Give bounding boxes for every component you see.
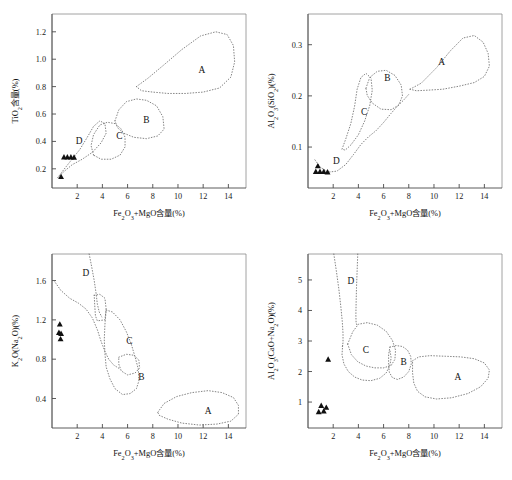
y-tick-label: 1.2 [36, 28, 46, 37]
field-label-D: D [333, 156, 340, 166]
field-label-B: B [384, 73, 390, 83]
data-point-marker [57, 321, 63, 326]
y-tick-label: 0.8 [36, 83, 46, 92]
x-tick-label: 2 [331, 432, 335, 441]
scatter-panel-panel-al2o3-cao-na2o: 246810121412345ABCDFe2O3+MgO含量(%)Al2O3(C… [256, 240, 512, 480]
x-tick-label: 2 [75, 432, 79, 441]
y-tick-label: 0.2 [292, 92, 302, 101]
x-tick-label: 6 [126, 432, 130, 441]
field-label-B: B [401, 357, 407, 367]
x-tick-label: 10 [174, 192, 182, 201]
field-label-D: D [76, 136, 83, 146]
field-envelope-A [410, 35, 489, 90]
field-label-A: A [455, 372, 462, 382]
y-tick-label: 0.3 [292, 41, 302, 50]
field-label-A: A [438, 57, 445, 67]
y-tick-label: 1 [298, 398, 302, 407]
field-label-C: C [126, 336, 132, 346]
field-envelope-D [315, 94, 409, 172]
x-tick-label: 6 [126, 192, 130, 201]
x-tick-label: 6 [382, 432, 386, 441]
y-tick-label: 0.8 [36, 355, 46, 364]
x-tick-label: 12 [455, 432, 463, 441]
x-tick-label: 8 [151, 192, 155, 201]
x-tick-label: 2 [75, 192, 79, 201]
field-envelope-C [94, 294, 106, 321]
scatter-panel-panel-tio2: 24681012140.20.40.60.81.01.2ABCDFe2O3+Mg… [0, 0, 256, 240]
x-tick-label: 12 [199, 432, 207, 441]
x-tick-label: 10 [430, 432, 438, 441]
field-envelope-D [334, 254, 343, 347]
x-tick-label: 14 [224, 432, 232, 441]
y-tick-label: 0.6 [36, 110, 46, 119]
x-tick-label: 14 [480, 192, 488, 201]
x-tick-label: 4 [100, 432, 104, 441]
x-tick-label: 8 [407, 192, 411, 201]
x-tick-label: 8 [407, 432, 411, 441]
x-tick-label: 4 [100, 192, 104, 201]
y-axis-title: K2O(Na2O)(%) [11, 315, 23, 367]
data-point-marker [318, 403, 324, 408]
y-tick-label: 5 [298, 276, 302, 285]
x-axis-title: Fe2O3+MgO含量(%) [113, 208, 185, 221]
x-tick-label: 10 [174, 432, 182, 441]
plot-frame [52, 14, 246, 188]
y-axis-title: TiO2含量(%) [10, 78, 23, 123]
x-axis-title: Fe2O3+MgO含量(%) [113, 448, 185, 461]
four-panel-scatter-figure: 24681012140.20.40.60.81.01.2ABCDFe2O3+Mg… [0, 0, 512, 480]
y-axis-title: Al2O3(CaO+Na2O)(%) [267, 302, 279, 380]
y-tick-label: 1.2 [36, 316, 46, 325]
field-label-A: A [205, 406, 212, 416]
x-tick-label: 2 [331, 192, 335, 201]
scatter-panel-panel-k2o-na2o: 24681012140.40.81.21.6ABCDFe2O3+MgO含量(%)… [0, 240, 256, 480]
data-point-marker [316, 409, 322, 414]
x-axis-title: Fe2O3+MgO含量(%) [369, 448, 441, 461]
y-tick-label: 1.0 [36, 55, 46, 64]
data-point-marker [315, 163, 321, 168]
field-label-C: C [363, 345, 369, 355]
field-envelope-A [413, 356, 490, 399]
y-tick-label: 0.4 [36, 137, 46, 146]
field-envelope-D2 [89, 254, 102, 317]
x-tick-label: 8 [151, 432, 155, 441]
data-point-marker [58, 336, 64, 341]
x-tick-label: 10 [430, 192, 438, 201]
field-label-C: C [361, 107, 367, 117]
field-envelope-A [158, 391, 239, 425]
field-label-C: C [116, 131, 122, 141]
field-envelope-C [342, 73, 372, 150]
field-label-D: D [83, 268, 90, 278]
x-tick-label: 14 [224, 192, 232, 201]
field-envelope-B [119, 354, 140, 375]
y-tick-label: 3 [298, 337, 302, 346]
y-axis-title: Al2O3(SiO2)(%) [267, 73, 279, 128]
scatter-panel-panel-al2o3-sio2: 24681012140.10.20.3ABCDFe2O3+MgO含量(%)Al2… [256, 0, 512, 240]
y-tick-label: 2 [298, 368, 302, 377]
field-envelope-C2 [104, 310, 139, 395]
y-tick-label: 0.2 [36, 165, 46, 174]
x-axis-title: Fe2O3+MgO含量(%) [369, 208, 441, 221]
field-label-B: B [143, 115, 149, 125]
y-tick-label: 1.6 [36, 277, 46, 286]
y-tick-label: 4 [298, 306, 302, 315]
plot-frame [308, 254, 502, 428]
field-label-D: D [347, 276, 354, 286]
x-tick-label: 12 [199, 192, 207, 201]
x-tick-label: 4 [356, 192, 360, 201]
field-label-A: A [199, 65, 206, 75]
x-tick-label: 14 [480, 432, 488, 441]
field-envelope-D [58, 121, 107, 178]
field-envelope-D2 [356, 254, 358, 326]
data-point-marker [325, 356, 331, 361]
plot-frame [52, 254, 246, 428]
y-tick-label: 0.1 [292, 143, 302, 152]
y-tick-label: 0.4 [36, 395, 46, 404]
x-tick-label: 4 [356, 432, 360, 441]
field-envelope-A [136, 32, 234, 94]
x-tick-label: 6 [382, 192, 386, 201]
field-envelope-D [54, 281, 120, 369]
x-tick-label: 12 [455, 192, 463, 201]
